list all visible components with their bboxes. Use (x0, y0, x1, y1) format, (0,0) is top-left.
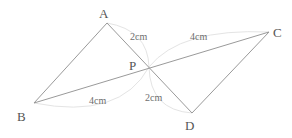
measurement-AP: 2cm (130, 31, 147, 42)
segment-BA (34, 23, 107, 103)
point-label-P: P (129, 58, 136, 73)
point-label-A: A (99, 6, 109, 21)
measurement-PD: 2cm (145, 92, 162, 103)
point-label-B: B (17, 109, 26, 124)
measurement-BP: 4cm (89, 95, 106, 106)
point-label-D: D (185, 118, 194, 133)
geometry-diagram: A B C D P 2cm 4cm 4cm 2cm (0, 0, 292, 138)
measurement-PC: 4cm (190, 31, 207, 42)
point-label-C: C (273, 25, 282, 40)
